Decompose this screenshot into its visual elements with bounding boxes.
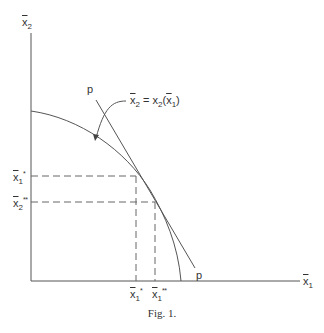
curve-label-arrow: [96, 101, 126, 138]
price-line-label-bottom: p: [196, 270, 202, 281]
y-axis-label: x2: [22, 17, 32, 31]
eq-sign: = x: [140, 94, 158, 106]
x-tick-x1-dstar: x1**: [152, 287, 166, 303]
y-tick-1-sub: 2: [19, 203, 23, 212]
y-tick-0-sup: *: [23, 170, 25, 177]
eq-paren-close: ): [176, 94, 180, 106]
x-tick-x1-star: x1*: [130, 287, 142, 303]
y-tick-1-sup: **: [23, 196, 27, 203]
y-tick-x1-star: x1*: [13, 170, 25, 186]
transformation-curve: [31, 111, 181, 281]
x-axis-label: x1: [303, 276, 313, 290]
price-line-label-top: p: [87, 84, 93, 95]
x-tick-1-sup: **: [162, 287, 166, 294]
curve-equation-label: x2 = x2(x1): [130, 95, 180, 109]
x-tick-0-sup: *: [140, 287, 142, 294]
y-tick-x2-dstar: x2**: [13, 196, 27, 212]
figure-caption: Fig. 1.: [0, 307, 324, 319]
price-line: [96, 100, 195, 268]
y-axis-label-sub: 2: [28, 22, 32, 31]
x-tick-1-sub: 1: [158, 294, 162, 303]
x-axis-label-sub: 1: [309, 281, 313, 290]
diagram-canvas: [0, 0, 324, 333]
x-tick-0-sub: 1: [136, 294, 140, 303]
y-tick-0-sub: 1: [19, 177, 23, 186]
